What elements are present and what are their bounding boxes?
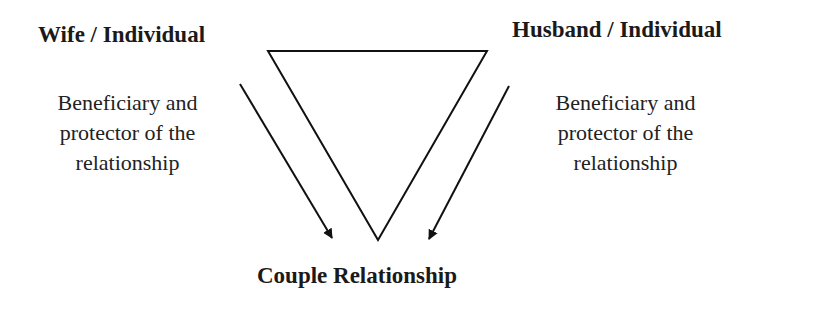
wife-role-line-1: Beneficiary and bbox=[40, 88, 215, 118]
wife-individual-title: Wife / Individual bbox=[38, 22, 205, 48]
husband-role-line-3: relationship bbox=[538, 148, 713, 178]
left-arrow bbox=[240, 84, 332, 238]
right-arrow bbox=[429, 86, 509, 239]
couple-relationship-title: Couple Relationship bbox=[257, 263, 457, 289]
husband-role-line-2: protector of the bbox=[538, 118, 713, 148]
wife-role-description: Beneficiary and protector of the relatio… bbox=[40, 88, 215, 178]
husband-role-description: Beneficiary and protector of the relatio… bbox=[538, 88, 713, 178]
wife-role-line-3: relationship bbox=[40, 148, 215, 178]
husband-role-line-1: Beneficiary and bbox=[538, 88, 713, 118]
husband-individual-title: Husband / Individual bbox=[512, 17, 722, 43]
wife-role-line-2: protector of the bbox=[40, 118, 215, 148]
inverted-triangle bbox=[268, 51, 487, 240]
